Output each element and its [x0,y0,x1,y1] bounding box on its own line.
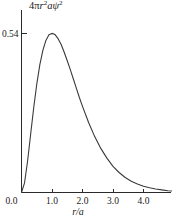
x-tick-label-3.0: 3.0 [107,196,119,206]
x-tick-label-2.0: 2.0 [77,196,89,206]
radial-probability-chart: 4πr2aψ2 0.01.02.03.04.0 0.54 r/a [0,0,172,221]
plot-area: 0.01.02.03.04.0 0.54 r/a [0,0,172,221]
x-tick-label-0.0: 0.0 [6,196,18,206]
y-tick-label-0.54: 0.54 [2,29,19,39]
axes-group [22,10,172,193]
curve-group [22,33,173,192]
x-ticks-group [52,189,144,193]
x-tick-label-1.0: 1.0 [46,196,58,206]
radial-density-curve [22,33,173,192]
x-tick-labels: 0.01.02.03.04.0 [6,196,150,206]
x-axis-title: r/a [72,206,84,217]
y-tick-labels: 0.54 [2,29,19,39]
x-tick-label-4.0: 4.0 [138,196,150,206]
